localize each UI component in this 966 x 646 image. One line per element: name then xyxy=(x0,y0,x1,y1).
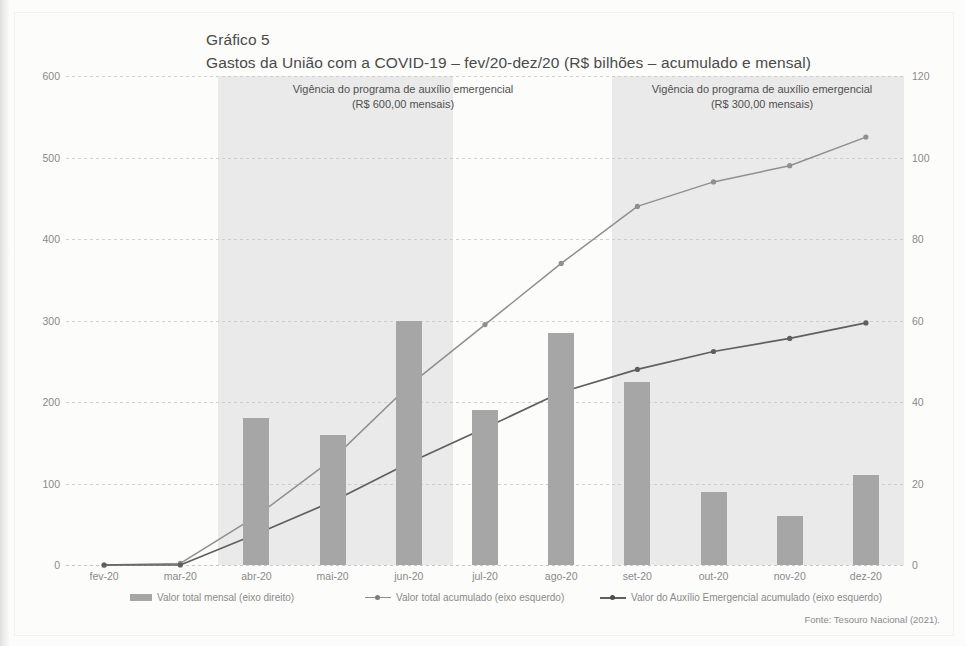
annotation-300-line2: (R$ 300,00 mensais) xyxy=(612,97,912,112)
legend-item-1: Valor total acumulado (eixo esquerdo) xyxy=(365,592,564,603)
legend-label-1: Valor total acumulado (eixo esquerdo) xyxy=(396,592,564,603)
y-tick-right-0: 0 xyxy=(912,559,918,571)
x-tick-set-20: set-20 xyxy=(623,570,652,582)
y-tick-left-0: 0 xyxy=(54,559,60,571)
y-tick-right-100: 100 xyxy=(912,152,930,164)
legend-label-2: Valor do Auxílio Emergencial acumulado (… xyxy=(631,592,882,603)
y-tick-left-500: 500 xyxy=(42,152,60,164)
y-tick-right-120: 120 xyxy=(912,70,930,82)
legend-label-0: Valor total mensal (eixo direito) xyxy=(157,592,294,603)
plot-area xyxy=(66,76,904,565)
bar-abr-20 xyxy=(243,418,269,565)
marker-0-jul-20 xyxy=(482,322,487,327)
y-tick-left-600: 600 xyxy=(42,70,60,82)
y-tick-right-20: 20 xyxy=(912,478,924,490)
x-tick-abr-20: abr-20 xyxy=(241,570,271,582)
annotation-300: Vigência do programa de auxílio emergenc… xyxy=(612,82,912,112)
marker-1-nov-20 xyxy=(787,336,792,341)
chart-container: 0100200300400500600 020406080100120 fev-… xyxy=(0,0,966,646)
legend-bar-swatch-icon xyxy=(130,594,152,601)
y-axis-left: 0100200300400500600 xyxy=(20,76,60,565)
legend-line-marker-icon xyxy=(600,594,626,601)
marker-0-ago-20 xyxy=(559,261,564,266)
x-tick-ago-20: ago-20 xyxy=(545,570,578,582)
x-tick-dez-20: dez-20 xyxy=(850,570,882,582)
marker-1-fev-20 xyxy=(102,562,107,567)
source-note: Fonte: Tesouro Nacional (2021). xyxy=(0,614,940,625)
x-tick-out-20: out-20 xyxy=(699,570,729,582)
y-tick-right-80: 80 xyxy=(912,233,924,245)
y-tick-right-40: 40 xyxy=(912,396,924,408)
annotation-600: Vigência do programa de auxílio emergenc… xyxy=(218,82,588,112)
marker-0-set-20 xyxy=(635,204,640,209)
legend-item-2: Valor do Auxílio Emergencial acumulado (… xyxy=(600,592,882,603)
y-tick-left-100: 100 xyxy=(42,478,60,490)
bar-out-20 xyxy=(701,492,727,565)
marker-0-nov-20 xyxy=(787,163,792,168)
legend-line-marker-icon xyxy=(365,594,391,601)
marker-1-set-20 xyxy=(635,367,640,372)
x-tick-jul-20: jul-20 xyxy=(472,570,498,582)
x-tick-jun-20: jun-20 xyxy=(394,570,423,582)
y-tick-left-300: 300 xyxy=(42,315,60,327)
annotation-300-line1: Vigência do programa de auxílio emergenc… xyxy=(612,82,912,97)
bar-jul-20 xyxy=(472,410,498,565)
x-tick-nov-20: nov-20 xyxy=(774,570,806,582)
chart-legend: Valor total mensal (eixo direito)Valor t… xyxy=(130,592,890,608)
legend-item-0: Valor total mensal (eixo direito) xyxy=(130,592,294,603)
bar-dez-20 xyxy=(853,475,879,565)
bar-mai-20 xyxy=(320,435,346,565)
annotation-600-line1: Vigência do programa de auxílio emergenc… xyxy=(218,82,588,97)
x-tick-mai-20: mai-20 xyxy=(317,570,349,582)
marker-0-out-20 xyxy=(711,179,716,184)
marker-1-dez-20 xyxy=(863,320,868,325)
x-tick-mar-20: mar-20 xyxy=(164,570,197,582)
marker-1-mar-20 xyxy=(178,562,183,567)
annotation-600-line2: (R$ 600,00 mensais) xyxy=(218,97,588,112)
bar-jun-20 xyxy=(396,321,422,566)
y-tick-left-400: 400 xyxy=(42,233,60,245)
y-tick-right-60: 60 xyxy=(912,315,924,327)
y-axis-right: 020406080100120 xyxy=(912,76,952,565)
marker-0-dez-20 xyxy=(863,135,868,140)
gridline-0 xyxy=(66,565,904,566)
bar-ago-20 xyxy=(548,333,574,565)
bar-set-20 xyxy=(624,382,650,565)
bar-nov-20 xyxy=(777,516,803,565)
marker-1-out-20 xyxy=(711,349,716,354)
x-tick-fev-20: fev-20 xyxy=(89,570,118,582)
y-tick-left-200: 200 xyxy=(42,396,60,408)
